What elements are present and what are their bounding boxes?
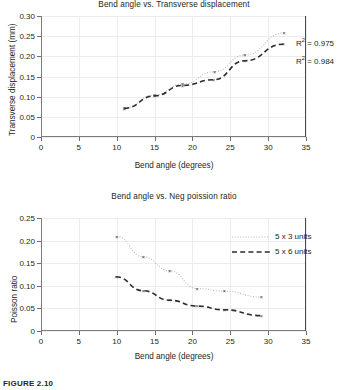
data-point-marker: × [168,297,172,303]
x-tick-label: 0 [39,143,43,152]
data-point-marker: × [222,288,226,294]
x-tick [268,331,269,335]
y-tick-label: 0 [31,327,35,336]
gridline-horizontal [41,137,306,138]
figure-caption: FIGURE 2.10 [3,379,53,390]
data-point-marker: × [168,268,172,274]
chart1-r2-annotation-dashed: R2 = 0.984 [296,55,334,66]
x-tick-label: 30 [264,143,273,152]
r2-value-2: = 0.984 [305,57,334,66]
x-tick [155,331,156,335]
x-tick [230,331,231,335]
x-tick [306,137,307,141]
figure-page: Bend angle vs. Transverse displacement T… [0,0,348,390]
gridline-vertical [306,16,307,137]
chart2-x-axis-title: Bend angle (degrees) [0,352,348,361]
x-tick-label: 5 [77,143,81,152]
data-point-marker: × [282,41,286,47]
y-tick-label: 0.25 [19,32,35,41]
data-point-marker: × [222,307,226,313]
x-tick-label: 20 [188,143,197,152]
x-tick-label: 15 [150,337,159,346]
data-point-marker: × [141,254,145,260]
x-tick-label: 10 [112,143,121,152]
data-point-marker: × [260,294,264,300]
x-tick-label: 5 [77,337,81,346]
legend-line-swatch [232,234,270,240]
chart-neg-poisson-ratio: Bend angle vs. Neg poission ratio Poisso… [0,192,348,372]
data-point-marker: × [213,69,217,75]
data-point-marker: × [153,93,157,99]
x-tick [192,137,193,141]
data-point-marker: × [181,83,185,89]
data-point-marker: × [195,286,199,292]
legend-item: 5 x 6 units [232,247,311,256]
y-tick-label: 0.20 [19,236,35,245]
data-point-marker: × [243,58,247,64]
legend-item-label: 5 x 3 units [275,232,311,241]
x-tick-label: 10 [112,337,121,346]
data-point-marker: × [141,288,145,294]
y-tick-label: 0.20 [19,52,35,61]
chart-transverse-displacement: Bend angle vs. Transverse displacement T… [0,0,348,192]
y-tick-label: 0.05 [19,304,35,313]
chart1-plot-area: 00.050.100.150.200.250.3005101520253035 … [41,16,306,137]
series-trendline [124,44,283,108]
data-point-marker: × [195,303,199,309]
x-tick-label: 35 [302,143,311,152]
data-point-marker: × [114,274,118,280]
x-tick-label: 30 [264,337,273,346]
series-trendline [116,277,261,316]
legend-line-swatch [232,249,270,255]
data-point-marker: × [123,106,127,112]
chart2-legend: 5 x 3 units5 x 6 units [232,232,311,262]
x-tick [155,137,156,141]
chart1-r2-annotation-dotted: R2 = 0.975 [296,37,334,48]
y-tick-label: 0.15 [19,72,35,81]
y-tick-label: 0.10 [19,281,35,290]
x-tick [268,137,269,141]
chart1-y-axis-title: Transverse displacement (mm) [8,23,17,136]
data-point-marker: × [212,77,216,83]
x-tick-label: 35 [302,337,311,346]
x-tick [117,331,118,335]
chart2-y-axis-title: Poisson ratio [10,276,19,323]
x-tick [41,331,42,335]
x-tick-label: 15 [150,143,159,152]
gridline-horizontal [41,331,306,332]
x-tick [230,137,231,141]
y-tick-label: 0.05 [19,112,35,121]
y-tick-label: 0 [31,133,35,142]
x-tick-label: 20 [188,337,197,346]
x-tick-label: 25 [226,143,235,152]
x-tick [41,137,42,141]
data-point-marker: × [115,234,119,240]
x-tick [117,137,118,141]
data-point-marker: × [282,30,286,36]
r2-value-1: = 0.975 [305,39,334,48]
legend-item: 5 x 3 units [232,232,311,241]
chart1-title: Bend angle vs. Transverse displacement [0,0,348,9]
legend-item-label: 5 x 6 units [275,247,311,256]
y-tick-label: 0.30 [19,12,35,21]
y-tick-label: 0.25 [19,214,35,223]
chart2-title: Bend angle vs. Neg poission ratio [0,192,348,201]
x-tick [306,331,307,335]
x-tick [79,331,80,335]
y-tick-label: 0.10 [19,92,35,101]
x-tick [192,331,193,335]
x-tick [79,137,80,141]
x-tick-label: 0 [39,337,43,346]
x-tick-label: 25 [226,337,235,346]
y-tick-label: 0.15 [19,259,35,268]
chart1-series-layer: ×××××××××××× [41,16,306,137]
chart1-x-axis-title: Bend angle (degrees) [0,161,348,170]
data-point-marker: × [260,313,264,319]
